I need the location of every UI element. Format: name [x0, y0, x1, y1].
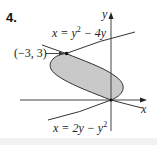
y-axis-label: y [101, 7, 108, 21]
upper-curve-label-rhs: − 4y [81, 26, 107, 40]
curve-x-y2-minus-4y-lower [111, 100, 142, 108]
x-axis-label: x [140, 102, 147, 116]
region-diagram: (−3, 3) x = y2 − 4y x = 2y − y2 x y [0, 0, 157, 145]
y-axis-arrow-icon [109, 12, 114, 19]
upper-curve-label-lhs: x = y [51, 26, 77, 40]
shaded-region [50, 54, 123, 101]
lower-curve-label-lhs: x = 2y − y [52, 121, 104, 135]
lower-curve-label: x = 2y − y2 [52, 120, 107, 135]
point-label: (−3, 3) [14, 46, 47, 60]
upper-curve-label: x = y2 − 4y [51, 25, 107, 40]
lower-curve-label-sup: 2 [103, 120, 107, 129]
curve-x-2y-minus-y2-lower [48, 100, 111, 120]
intersection-point [65, 52, 69, 56]
origin-point [110, 99, 113, 102]
